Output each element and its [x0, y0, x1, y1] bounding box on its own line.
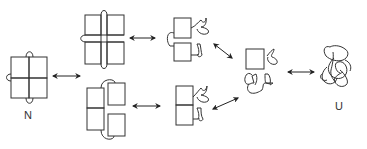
- arrow-i2a-i3: [214, 44, 232, 58]
- intermediate-1a-node: [81, 11, 124, 69]
- unfolded-state-label: U: [335, 100, 343, 112]
- intermediate-3-node: [245, 49, 277, 93]
- intermediate-1b-node: [87, 80, 125, 140]
- intermediate-2b-node: [176, 86, 209, 125]
- folding-pathway-diagram: [0, 0, 367, 149]
- intermediate-2a-node: [167, 18, 208, 61]
- unfolded-state-node: [321, 46, 351, 87]
- arrow-i2b-i3: [213, 98, 238, 109]
- native-state-label: N: [24, 109, 32, 121]
- native-state-node: [7, 52, 48, 104]
